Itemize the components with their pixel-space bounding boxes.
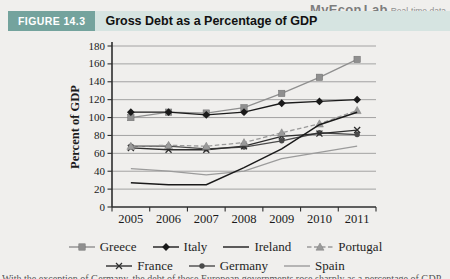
svg-text:80: 80 <box>94 129 106 141</box>
legend-item-greece: Greece <box>68 239 137 255</box>
svg-text:2007: 2007 <box>194 212 219 226</box>
debt-chart: 0204060801001201401601802005200620072008… <box>0 0 450 236</box>
legend-marker-ireland-icon <box>222 241 250 253</box>
svg-text:100: 100 <box>89 111 106 123</box>
svg-text:2009: 2009 <box>269 212 294 226</box>
svg-text:140: 140 <box>89 75 106 87</box>
x-axis-tick-labels: 2005200620072008200920102011 <box>118 212 369 226</box>
svg-text:180: 180 <box>89 40 106 52</box>
legend-marker-italy-icon <box>152 241 180 253</box>
legend-item-italy: Italy <box>152 239 208 255</box>
y-axis-tick-labels: 020406080100120140160180 <box>89 40 106 213</box>
legend-marker-germany-icon <box>188 260 216 272</box>
figure-panel: MyEconLabReal-time data FIGURE 14.3 Gros… <box>0 0 450 279</box>
svg-text:20: 20 <box>94 183 106 195</box>
svg-text:160: 160 <box>89 57 106 69</box>
legend-item-portugal: Portugal <box>306 239 382 255</box>
svg-text:2006: 2006 <box>156 212 181 226</box>
svg-text:2011: 2011 <box>345 212 370 226</box>
legend-marker-france-icon <box>105 260 133 272</box>
chart-legend: GreeceItalyIrelandPortugalFranceGermanyS… <box>0 239 450 274</box>
legend-marker-spain-icon <box>283 260 311 272</box>
svg-text:40: 40 <box>94 165 106 177</box>
svg-text:2005: 2005 <box>118 212 143 226</box>
svg-text:2010: 2010 <box>307 212 332 226</box>
y-axis-label: Percent of GDP <box>68 85 82 169</box>
svg-text:60: 60 <box>94 147 106 159</box>
svg-text:120: 120 <box>89 93 106 105</box>
legend-label-portugal: Portugal <box>338 239 382 255</box>
legend-item-ireland: Ireland <box>222 239 291 255</box>
caption-partial: With the exception of Germany, the debt … <box>2 273 448 279</box>
legend-row-0: GreeceItalyIrelandPortugal <box>68 239 383 255</box>
legend-label-italy: Italy <box>184 239 208 255</box>
legend-label-greece: Greece <box>100 239 137 255</box>
legend-marker-portugal-icon <box>306 241 334 253</box>
axes <box>108 42 377 212</box>
svg-text:2008: 2008 <box>232 212 257 226</box>
svg-text:0: 0 <box>100 201 106 213</box>
series-spain <box>131 146 357 175</box>
legend-marker-greece-icon <box>68 241 96 253</box>
legend-label-ireland: Ireland <box>254 239 291 255</box>
